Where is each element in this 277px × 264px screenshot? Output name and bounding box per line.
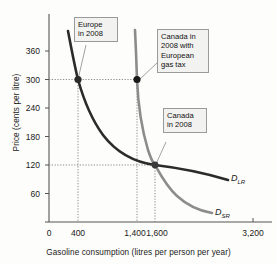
x-tick-label-1600: 1,600 [137, 228, 177, 238]
curve-label-d-lr: DLR [231, 173, 245, 185]
callout-canada-2008-with-european-gas-tax: Canada in 2008 with European gas tax [157, 29, 209, 73]
x-tick-label-3200: 3,200 [233, 228, 273, 238]
x-tick-label-400: 400 [58, 228, 98, 238]
leader-europe [78, 45, 86, 80]
callout-leader-lines [78, 45, 166, 164]
curve-label-d-sr-sub: SR [222, 213, 230, 219]
marker-canada-2008-with-european-gas-tax [133, 76, 140, 83]
marker-europe-2008 [74, 76, 81, 83]
leader-canada [156, 142, 166, 164]
x-axis-title: Gasoline consumption (litres per person … [0, 248, 277, 257]
callout-canada-2008: Canada in 2008 [163, 108, 207, 133]
y-axis-title: Price (cents per litre) [12, 53, 21, 173]
chart-plot-area [0, 0, 277, 264]
chart-figure: 360 300 240 180 120 60 0 400 1,400 1,600… [0, 0, 277, 264]
marker-canada-2008 [152, 162, 159, 169]
y-tick-label-60: 60 [6, 189, 40, 199]
curve-label-d-lr-sub: LR [238, 179, 246, 185]
callout-europe-2008: Europe in 2008 [74, 17, 118, 42]
leader-canada-tax [139, 62, 158, 80]
curve-label-d-sr: DSR [215, 207, 230, 219]
y-tick-marks [45, 51, 49, 222]
